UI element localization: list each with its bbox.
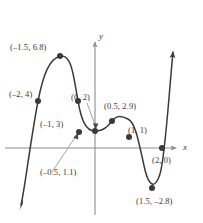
data-point-neg0.5-1.1 <box>76 129 82 135</box>
data-point-1.5-neg2.8 <box>149 185 155 191</box>
point-label-neg2-4: (–2, 4) <box>9 90 32 99</box>
data-point-2-0 <box>159 145 165 151</box>
y-axis-label: y <box>99 32 103 41</box>
data-point-0.5-2.9 <box>109 118 115 124</box>
leader-line-0-2 <box>87 103 96 126</box>
x-axis-label: x <box>183 143 187 152</box>
data-point-0-2 <box>92 128 98 134</box>
point-label-neg0.5-1.1: (–0.5, 1.1) <box>40 168 77 177</box>
point-label-1.5-neg2.8: (1.5, –2.8) <box>136 197 173 206</box>
data-point-neg2-4 <box>35 98 41 104</box>
graph-figure: (–1.5, 6.8) (–2, 4) (–1, 3) (0, 2) (0.5,… <box>0 0 203 223</box>
point-label-0-2: (0, 2) <box>71 93 90 102</box>
data-point-neg1.5-6.8 <box>57 53 63 59</box>
point-label-neg1-3: (–1, 3) <box>40 120 63 129</box>
point-label-0.5-2.9: (0.5, 2.9) <box>104 102 136 111</box>
point-label-neg1.5-6.8: (–1.5, 6.8) <box>10 43 47 52</box>
point-label-1-1: (1, 1) <box>128 126 147 135</box>
point-label-2-0: (2, 0) <box>152 156 171 165</box>
